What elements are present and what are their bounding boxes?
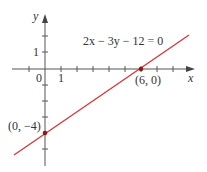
equation-line	[14, 35, 189, 155]
point-y-intercept	[43, 131, 48, 136]
equation-label: 2x − 3y − 12 = 0	[83, 34, 163, 48]
origin-label: 0	[36, 71, 42, 85]
point-x-intercept	[139, 67, 144, 72]
y-axis	[42, 14, 48, 166]
point-label-x-intercept: (6, 0)	[135, 73, 161, 87]
y-axis-label: y	[32, 9, 39, 23]
x-tick-label-1: 1	[58, 71, 64, 85]
y-tick-label-1: 1	[33, 45, 39, 59]
line-graph: y x 1 0 1 (6, 0) (0, −4) 2x − 3y − 12 = …	[0, 0, 207, 172]
y-axis-arrow-icon	[42, 14, 48, 23]
x-axis-label: x	[187, 71, 194, 85]
point-label-y-intercept: (0, −4)	[8, 119, 41, 133]
